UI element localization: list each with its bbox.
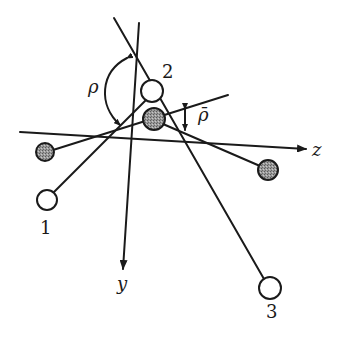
- shaded-atom-right: [258, 160, 278, 180]
- atom-2: [141, 80, 163, 102]
- rho-label: ρ: [87, 76, 99, 97]
- atom-1: [37, 190, 57, 210]
- atom-3: [259, 277, 281, 299]
- rho-angle-arc: [105, 58, 127, 125]
- shaded-atom-left: [36, 143, 54, 161]
- diagram-canvas: 1 2 3 z y ρ ρ̄: [0, 0, 341, 338]
- shaded-atom-center: [143, 108, 165, 130]
- y-axis-label: y: [116, 273, 128, 294]
- bond-line-2-3: [114, 18, 264, 279]
- z-axis-label: z: [311, 139, 322, 160]
- atom-label-2: 2: [162, 61, 173, 82]
- atom-label-3: 3: [266, 301, 277, 322]
- atom-label-1: 1: [40, 217, 51, 238]
- rho-bar-label: ρ̄: [197, 104, 209, 125]
